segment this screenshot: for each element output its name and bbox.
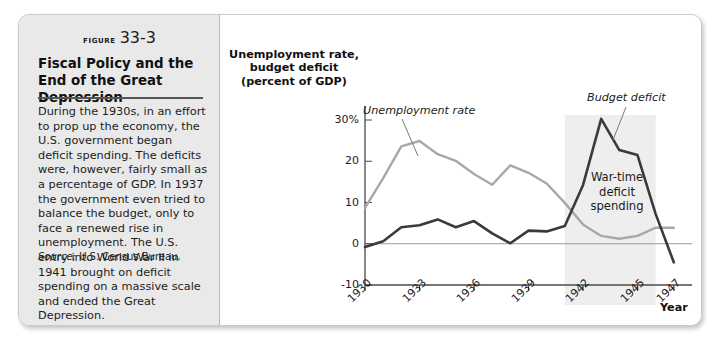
figure-panel: FIGURE33-3 Fiscal Policy and the End of … — [18, 14, 702, 326]
source-label: Source: — [38, 251, 76, 262]
figure-text-column: FIGURE33-3 Fiscal Policy and the End of … — [19, 15, 220, 325]
wartime-label-line: deficit — [569, 185, 665, 200]
wartime-label-line: spending — [569, 199, 665, 214]
y-tick-label: 20 — [323, 154, 359, 167]
wartime-label-line: War-time — [569, 170, 665, 185]
leader-line-unemployment — [402, 119, 418, 156]
annotation-budget-deficit: Budget deficit — [587, 91, 666, 104]
source-value: U.S. Census Bureau. — [79, 251, 181, 262]
figure-number-word: FIGURE — [83, 33, 116, 45]
y-tick-label: 10 — [323, 196, 359, 209]
y-tick-label: 30% — [323, 113, 359, 126]
annotation-wartime-deficit-spending: War-timedeficitspending — [569, 170, 665, 214]
annotation-unemployment-rate: Unemployment rate — [363, 104, 475, 117]
title-divider — [38, 97, 203, 99]
figure-number: FIGURE33-3 — [19, 28, 220, 47]
figure-body-text: During the 1930s, in an effort to prop u… — [38, 105, 210, 324]
figure-source: Source: U.S. Census Bureau. — [38, 251, 218, 262]
chart-area: Unemployment rate,budget deficit(percent… — [220, 15, 702, 325]
y-tick-label: 0 — [323, 237, 359, 250]
figure-number-value: 33-3 — [120, 28, 156, 47]
